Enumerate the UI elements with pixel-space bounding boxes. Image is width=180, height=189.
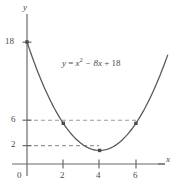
y-axis-label: y <box>23 3 27 12</box>
y-tick-label-6: 6 <box>11 115 16 124</box>
graph-figure: 18 6 2 2 4 6 0 y x y = x2 − 8x + 18 <box>0 0 180 189</box>
origin-label: 0 <box>17 171 22 180</box>
data-point-4-2 <box>98 149 101 152</box>
equation-term2: − 8x <box>85 58 102 68</box>
data-point-2-6 <box>62 122 65 125</box>
equation-term3: + 18 <box>104 58 120 68</box>
equation-term1-exponent: 2 <box>80 56 83 63</box>
x-tick-label-4: 4 <box>96 171 101 180</box>
data-point-0-18 <box>25 40 28 43</box>
data-point-6-6 <box>134 122 137 125</box>
x-axis-label: x <box>166 155 170 164</box>
x-tick-label-6: 6 <box>133 171 138 180</box>
equation-lhs: y <box>62 58 66 68</box>
x-tick-label-2: 2 <box>60 171 65 180</box>
y-tick-label-2: 2 <box>11 140 16 149</box>
y-tick-label-18: 18 <box>5 37 14 46</box>
plot-canvas <box>0 0 180 189</box>
equation-annotation: y = x2 − 8x + 18 <box>62 57 120 68</box>
equation-equals: = <box>68 58 73 68</box>
